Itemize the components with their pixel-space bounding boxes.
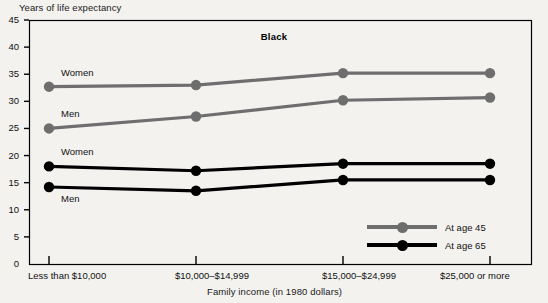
data-point-marker [485, 175, 495, 185]
data-point-marker [44, 123, 54, 133]
data-point-marker [191, 80, 201, 90]
legend-item[interactable]: At age 45 [367, 218, 486, 236]
series-line [49, 180, 490, 191]
data-point-marker [338, 95, 348, 105]
data-point-marker [485, 92, 495, 102]
data-point-marker [44, 81, 54, 91]
legend-swatch [367, 238, 437, 252]
data-point-marker [338, 68, 348, 78]
data-point-marker [338, 158, 348, 168]
x-axis-label: Family income (in 1980 dollars) [207, 286, 342, 297]
data-point-marker [485, 158, 495, 168]
legend-marker-icon [397, 240, 408, 251]
data-point-marker [191, 166, 201, 176]
data-point-marker [338, 175, 348, 185]
plot-area [0, 0, 548, 303]
data-point-marker [485, 68, 495, 78]
legend: At age 45At age 65 [367, 218, 486, 254]
legend-label: At age 45 [445, 222, 486, 233]
data-point-marker [44, 161, 54, 171]
data-point-marker [191, 111, 201, 121]
legend-item[interactable]: At age 65 [367, 236, 486, 254]
data-point-marker [44, 182, 54, 192]
series-line [49, 98, 490, 129]
series-line [49, 164, 490, 171]
series-line [49, 73, 490, 87]
chart-figure: Years of life expectancy Black 051015202… [0, 0, 548, 303]
legend-marker-icon [397, 222, 408, 233]
data-point-marker [191, 186, 201, 196]
legend-label: At age 65 [445, 240, 486, 251]
legend-swatch [367, 220, 437, 234]
